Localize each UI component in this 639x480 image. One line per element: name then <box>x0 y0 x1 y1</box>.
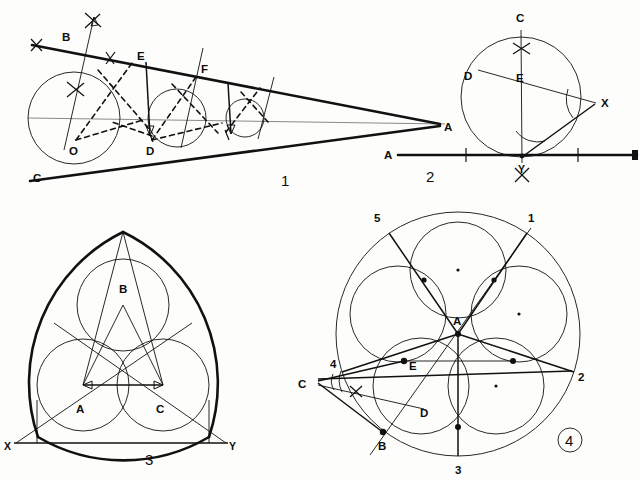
fig1-label-O: O <box>69 145 78 157</box>
fig4-node-upper-left-dot <box>421 277 426 282</box>
plate-canvas: B C E F O D A 1 <box>0 0 639 480</box>
fig3-label-Y: Y <box>229 440 236 452</box>
fig4-vertex-label-3: 3 <box>455 464 461 476</box>
fig3-number: 3 <box>145 451 153 468</box>
fig4-vertex-label-1: 1 <box>528 212 535 224</box>
fig4-number: 4 <box>565 432 573 449</box>
fig4-label-E: E <box>409 360 417 372</box>
fig4-node-bottom-dot <box>455 424 461 430</box>
fig2-point-Y-dot <box>520 154 525 159</box>
fig1-number: 1 <box>281 172 289 189</box>
fig3-label-X: X <box>4 440 11 452</box>
fig2-label-A: A <box>384 149 392 161</box>
fig4-label-C: C <box>298 378 306 390</box>
fig2-baseline-endcap <box>632 150 638 160</box>
fig1-label-E: E <box>137 50 145 62</box>
fig4-vertex-label-5: 5 <box>374 212 381 224</box>
fig4-vertex-label-2: 2 <box>578 371 584 383</box>
fig2-label-E: E <box>516 72 524 84</box>
fig4-petal-dot-3 <box>494 384 497 387</box>
fig4-vertex-label-4: 4 <box>330 358 337 370</box>
page-background <box>0 0 639 480</box>
fig1-label-B: B <box>62 31 70 43</box>
fig4-label-D: D <box>420 407 428 419</box>
fig2-number: 2 <box>426 168 434 185</box>
fig3-label-A: A <box>76 403 84 415</box>
fig1-label-F: F <box>201 63 208 75</box>
fig4-petal-dot-2 <box>517 312 520 315</box>
fig4-label-B: B <box>378 440 386 452</box>
fig2-label-C: C <box>516 12 524 24</box>
fig2-label-X: X <box>601 97 609 109</box>
fig1-label-C: C <box>33 172 41 184</box>
fig1-label-A: A <box>444 121 452 133</box>
fig2-label-D: D <box>464 70 472 82</box>
fig3-label-B: B <box>119 283 127 295</box>
drawing-plate: B C E F O D A 1 <box>0 0 639 480</box>
fig2-label-Y: Y <box>518 163 525 175</box>
fig4-petal-dot-1 <box>456 268 459 271</box>
fig4-label-A: A <box>453 315 461 327</box>
fig1-label-D: D <box>146 145 154 157</box>
fig3-label-C: C <box>156 403 164 415</box>
